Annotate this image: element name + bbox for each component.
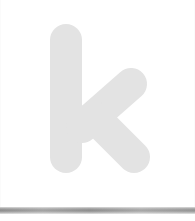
logo-canvas xyxy=(0,0,195,221)
k-lower-arm-stroke xyxy=(94,117,134,157)
k-logo-mark xyxy=(0,0,195,195)
band-base-fill xyxy=(0,214,195,221)
bottom-gray-band xyxy=(0,207,195,214)
band-sheen-overlay xyxy=(0,207,195,214)
k-logo-svg xyxy=(0,0,195,195)
